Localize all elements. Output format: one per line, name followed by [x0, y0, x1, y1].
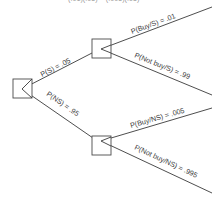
leaf-label-notbuy-ns: P(Not buy/NS) = .995 — [133, 143, 199, 180]
top-cut-text: (.01)(.05) = (.005)(.95) — [68, 0, 139, 3]
leaf-label-buy-s: P(Buy/S) = .01 — [130, 11, 177, 36]
edge-s-notbuy — [101, 49, 212, 95]
branch-label-ns: P(NS) = .95 — [45, 89, 81, 118]
probability-tree-diagram: (.01)(.05) = (.005)(.95) P(S) = .05 P(NS… — [0, 0, 221, 198]
edge-s-buy — [101, 7, 212, 49]
ns-node — [92, 136, 111, 155]
edge-ns-notbuy — [101, 141, 212, 193]
leaf-label-buy-ns: P(Buy/NS) = .005 — [129, 106, 185, 130]
branch-label-s: P(S) = .05 — [39, 56, 72, 79]
